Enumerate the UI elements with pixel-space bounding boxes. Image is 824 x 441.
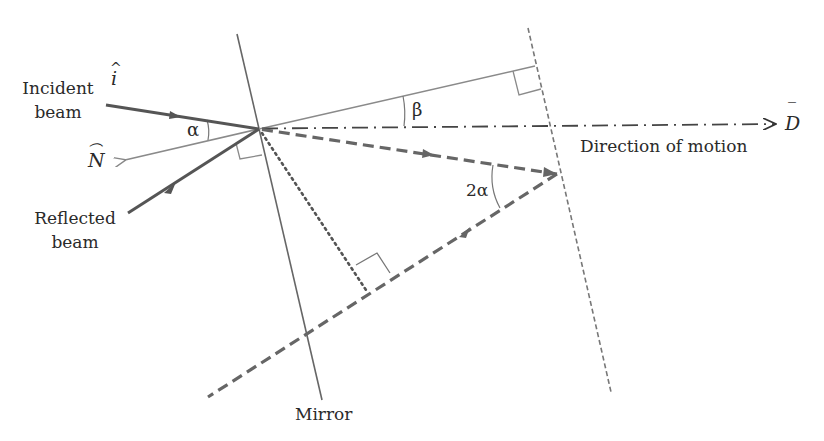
diagram-lines [0,0,824,441]
direction-of-motion-line [262,124,776,129]
alpha-arc [207,120,209,140]
incident-unit-vector-label: i [111,68,117,88]
alpha-label: α [187,120,199,140]
diagram-canvas: Incident beam ^ i ⌒ N α β 2α Reflected b… [0,0,824,441]
returned-beam-line [208,174,557,397]
upper-perpendicular-line [259,66,535,129]
incident-beam-label-line2: beam [18,102,98,122]
reflected-beam-line [128,129,259,213]
mirror-label: Mirror [295,404,352,424]
beta-label: β [412,100,422,120]
mirror-line [237,34,322,400]
incident-beam-label: Incident beam [18,78,98,122]
normal-vector-label: N [88,150,105,170]
right-angle-marker-foot [356,253,390,273]
reflected-beam-label: Reflected beam [30,208,120,252]
two-alpha-arc [492,165,500,208]
incident-extension-line [262,130,557,175]
incident-beam-line [106,105,259,129]
direction-of-motion-label: Direction of motion [580,136,747,156]
two-alpha-label: 2α [466,180,488,200]
right-angle-marker-normal [236,143,262,159]
beta-arc [403,96,405,126]
direction-vector-label: D [785,113,800,133]
reflected-beam-label-line1: Reflected [30,208,120,228]
reflected-beam-label-line2: beam [30,232,120,252]
displaced-mirror-line [528,28,611,392]
incident-beam-label-line1: Incident [18,78,98,98]
right-angle-marker-top [513,71,541,95]
